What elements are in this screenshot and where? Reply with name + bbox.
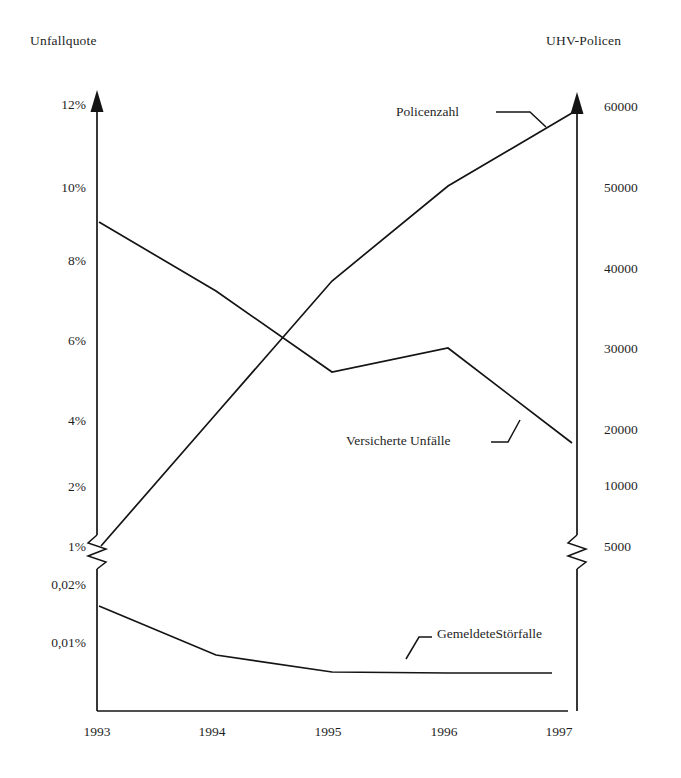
left-axis-arrow-icon bbox=[91, 90, 104, 112]
series-line-gemeldete-stoerfalle bbox=[99, 606, 552, 673]
right-axis-break-icon bbox=[568, 535, 586, 569]
right-axis-arrow-icon bbox=[571, 92, 584, 114]
leader-line-versicherte-unfaelle bbox=[491, 420, 520, 442]
series-line-policenzahl bbox=[101, 113, 572, 546]
chart-figure: Unfallquote UHV-Policen 12% 10% 8% 6% 4%… bbox=[0, 0, 681, 778]
chart-plot-area bbox=[0, 0, 681, 778]
leader-line-gemeldete-stoerfalle bbox=[406, 637, 432, 659]
series-line-versicherte-unfaelle bbox=[99, 222, 572, 443]
left-axis-break-icon bbox=[88, 535, 106, 569]
leader-line-policenzahl bbox=[496, 112, 546, 127]
